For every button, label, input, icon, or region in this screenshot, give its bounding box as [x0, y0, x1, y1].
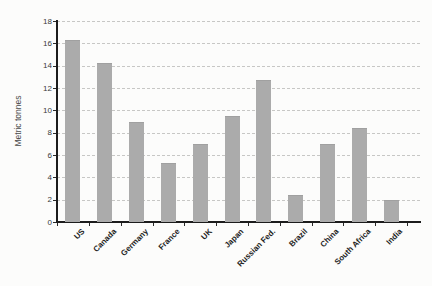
bar-china	[320, 144, 335, 222]
x-tick-label-india: India	[385, 227, 405, 247]
y-tick-label-4: 4	[22, 173, 52, 182]
bar-japan	[225, 116, 240, 222]
gridline-y-18	[57, 21, 420, 22]
bar-south-africa	[352, 128, 367, 222]
x-tick-mark	[375, 223, 376, 226]
y-tick-mark	[53, 177, 56, 178]
x-tick-mark	[57, 223, 58, 226]
y-axis-line	[56, 20, 58, 223]
y-tick-mark	[53, 200, 56, 201]
x-tick-mark	[184, 223, 185, 226]
x-tick-label-brazil: Brazil	[287, 227, 309, 249]
y-tick-mark	[53, 222, 56, 223]
bar-india	[384, 200, 399, 222]
y-tick-mark	[53, 66, 56, 67]
x-tick-mark	[407, 223, 408, 226]
x-tick-label-germany: Germany	[119, 227, 150, 258]
x-tick-mark	[153, 223, 154, 226]
x-tick-mark	[343, 223, 344, 226]
y-tick-label-12: 12	[22, 84, 52, 93]
y-tick-label-18: 18	[22, 17, 52, 26]
y-tick-label-2: 2	[22, 195, 52, 204]
y-tick-label-16: 16	[22, 39, 52, 48]
y-tick-label-10: 10	[22, 106, 52, 115]
x-tick-mark	[216, 223, 217, 226]
y-tick-mark	[53, 155, 56, 156]
y-tick-label-8: 8	[22, 128, 52, 137]
x-tick-mark	[121, 223, 122, 226]
gridline-y-16	[57, 43, 420, 44]
y-tick-label-6: 6	[22, 151, 52, 160]
x-tick-mark	[312, 223, 313, 226]
y-tick-mark	[53, 133, 56, 134]
bar-russian-fed	[256, 80, 271, 222]
y-tick-mark	[53, 110, 56, 111]
y-tick-label-0: 0	[22, 218, 52, 227]
y-tick-label-14: 14	[22, 61, 52, 70]
y-tick-mark	[53, 21, 56, 22]
x-tick-label-china: China	[319, 227, 341, 249]
x-tick-label-uk: UK	[199, 227, 214, 242]
y-tick-mark	[53, 88, 56, 89]
bar-us	[65, 40, 80, 222]
x-tick-label-us: US	[72, 227, 86, 241]
x-tick-mark	[248, 223, 249, 226]
y-tick-mark	[53, 43, 56, 44]
x-tick-mark	[280, 223, 281, 226]
bar-chart: Metric tonnes 024681012141618USCanadaGer…	[0, 0, 432, 286]
bar-germany	[129, 122, 144, 223]
x-tick-mark	[89, 223, 90, 226]
x-tick-label-japan: Japan	[223, 227, 246, 250]
bar-brazil	[288, 195, 303, 222]
y-axis-title: Metric tonnes	[13, 95, 23, 146]
x-tick-label-france: France	[157, 227, 182, 252]
bar-france	[161, 163, 176, 222]
bar-uk	[193, 144, 208, 222]
x-tick-label-canada: Canada	[91, 227, 118, 254]
bar-canada	[97, 63, 112, 222]
